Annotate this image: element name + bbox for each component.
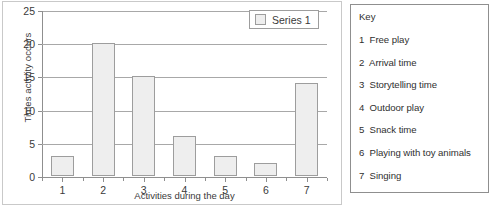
key-item: 1 Free play — [359, 35, 488, 45]
y-tick-mark — [38, 144, 42, 145]
key-item-label: Outdoor play — [367, 102, 424, 113]
key-item: 5 Snack time — [359, 125, 488, 135]
key-heading: Key — [359, 12, 488, 22]
key-item-number: 4 — [359, 103, 367, 113]
x-tick-mark-minor — [123, 178, 124, 181]
key-item-label: Playing with toy animals — [367, 147, 471, 158]
key-item-label: Arrival time — [367, 57, 416, 68]
key-item: 4 Outdoor play — [359, 103, 488, 113]
x-axis-title: Activities during the day — [42, 190, 327, 201]
key-panel: Key 1 Free play2 Arrival time3 Storytell… — [350, 4, 489, 193]
key-item: 6 Playing with toy animals — [359, 148, 488, 158]
bar[interactable] — [254, 163, 277, 176]
x-tick-mark-minor — [205, 178, 206, 181]
bar[interactable] — [214, 156, 237, 176]
y-tick-label: 5 — [29, 138, 35, 150]
key-item-number: 1 — [359, 35, 367, 45]
series-swatch-icon — [255, 14, 266, 25]
x-tick-mark — [225, 178, 226, 182]
y-tick-label: 15 — [23, 71, 35, 83]
series-legend[interactable]: Series 1 — [249, 10, 319, 29]
key-item-number: 3 — [359, 80, 367, 90]
bar[interactable] — [51, 156, 74, 176]
y-tick-mark — [38, 77, 42, 78]
y-axis-line — [42, 11, 43, 178]
y-tick-label: 20 — [23, 38, 35, 50]
chart-page: Times activity occurs 0510152025 1234567… — [0, 0, 498, 210]
key-item-label: Free play — [367, 34, 409, 45]
gridline — [42, 77, 327, 78]
key-item-label: Snack time — [367, 124, 417, 135]
y-tick-label: 0 — [29, 171, 35, 183]
bar[interactable] — [132, 76, 155, 176]
key-item-number: 6 — [359, 148, 367, 158]
x-tick-mark-minor — [83, 178, 84, 181]
key-item-label: Singing — [367, 170, 401, 181]
y-tick-mark — [38, 11, 42, 12]
x-tick-mark-minor — [42, 178, 43, 181]
gridline — [42, 44, 327, 45]
x-tick-mark — [266, 178, 267, 182]
key-item-number: 5 — [359, 125, 367, 135]
y-tick-label: 25 — [23, 5, 35, 17]
y-tick-mark — [38, 111, 42, 112]
x-tick-mark-minor — [246, 178, 247, 181]
y-tick-label: 10 — [23, 105, 35, 117]
bar[interactable] — [295, 83, 318, 176]
x-tick-mark-minor — [327, 178, 328, 181]
key-item: 7 Singing — [359, 171, 488, 181]
x-tick-mark-minor — [286, 178, 287, 181]
key-item-number: 2 — [359, 58, 367, 68]
bar[interactable] — [92, 43, 115, 176]
key-item: 3 Storytelling time — [359, 80, 488, 90]
x-tick-mark — [185, 178, 186, 182]
x-tick-mark-minor — [164, 178, 165, 181]
x-tick-mark — [103, 178, 104, 182]
y-tick-mark — [38, 44, 42, 45]
key-item-label: Storytelling time — [367, 79, 437, 90]
series-legend-label: Series 1 — [272, 14, 311, 26]
key-item-list: 1 Free play2 Arrival time3 Storytelling … — [359, 35, 488, 181]
chart-frame: Times activity occurs 0510152025 1234567… — [2, 1, 342, 205]
x-tick-mark — [144, 178, 145, 182]
x-tick-mark — [307, 178, 308, 182]
plot-area: 0510152025 1234567 — [42, 11, 327, 177]
gridline — [42, 111, 327, 112]
bar[interactable] — [173, 136, 196, 176]
x-tick-mark — [62, 178, 63, 182]
key-item-number: 7 — [359, 171, 367, 181]
key-item: 2 Arrival time — [359, 58, 488, 68]
